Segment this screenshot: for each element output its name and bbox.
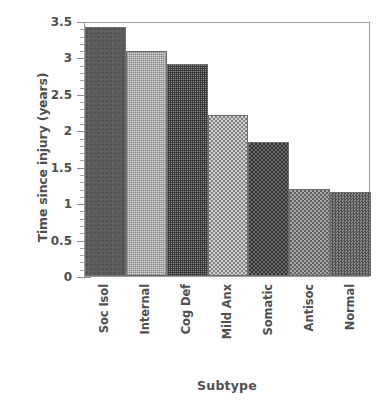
y-tick-label: 2.5 (51, 88, 72, 102)
bar-slot (330, 22, 371, 276)
bar-internal (126, 51, 167, 276)
x-tick-label: Antisoc (302, 284, 316, 331)
x-tick-label: Normal (343, 284, 357, 330)
y-tick-label: 3 (64, 51, 72, 65)
y-tick-label: 0 (64, 270, 72, 284)
x-axis-tick-labels: Soc IsolInternalCog DefMild AnxSomaticAn… (84, 280, 370, 372)
y-tick-label: 3.5 (51, 15, 72, 29)
bar-cog-def (167, 64, 208, 276)
y-tick-label: 2 (64, 124, 72, 138)
x-tick-slot: Soc Isol (84, 280, 125, 372)
x-tick-label: Soc Isol (97, 284, 111, 333)
bar-slot (289, 22, 330, 276)
plot-area (84, 22, 370, 277)
x-tick-slot: Internal (125, 280, 166, 372)
y-tick-label: 1.5 (51, 161, 72, 175)
bar-normal (330, 192, 371, 276)
x-tick-label: Somatic (261, 284, 275, 335)
x-tick-label: Mild Anx (220, 284, 234, 339)
x-axis-title: Subtype (84, 378, 370, 393)
x-tick-label: Cog Def (179, 284, 193, 334)
bar-slot (126, 22, 167, 276)
x-tick-slot: Antisoc (288, 280, 329, 372)
bar-soc-isol (85, 27, 126, 276)
bar-series (85, 22, 371, 276)
bar-slot (85, 22, 126, 276)
bar-chart-figure: Time since injury (years) 00.511.522.533… (0, 0, 385, 413)
x-tick-slot: Normal (329, 280, 370, 372)
y-tick-major (77, 277, 91, 278)
y-tick-label: 1 (64, 197, 72, 211)
bar-slot (208, 22, 249, 276)
bar-slot (248, 22, 289, 276)
x-tick-slot: Somatic (247, 280, 288, 372)
bar-mild-anx (208, 115, 249, 276)
y-axis-tick-labels: 00.511.522.533.5 (0, 0, 78, 413)
x-tick-slot: Cog Def (166, 280, 207, 372)
y-tick-label: 0.5 (51, 234, 72, 248)
x-tick-slot: Mild Anx (207, 280, 248, 372)
x-tick-label: Internal (138, 284, 152, 335)
bar-antisoc (289, 189, 330, 276)
bar-somatic (248, 142, 289, 276)
bar-slot (167, 22, 208, 276)
